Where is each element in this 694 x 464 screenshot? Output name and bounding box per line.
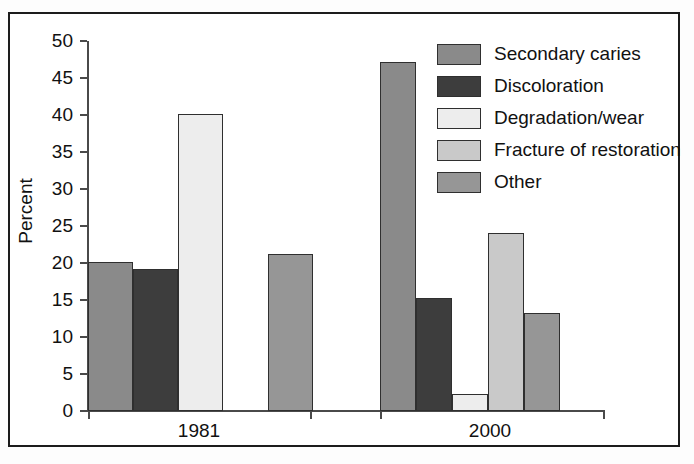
legend-color-swatch — [437, 108, 481, 129]
legend-item-label: Degradation/wear — [494, 107, 644, 129]
figure-container: 50454035302520151050 Percent 19812000 Se… — [0, 0, 694, 464]
bar — [452, 394, 488, 411]
y-axis-tick: 40 — [0, 105, 87, 124]
bar — [178, 114, 223, 411]
bar — [133, 269, 178, 411]
y-axis-title: Percent — [15, 141, 37, 281]
legend-color-swatch — [437, 172, 481, 193]
legend-item: Degradation/wear — [437, 102, 677, 134]
y-axis-tick: 5 — [0, 364, 87, 383]
y-axis-tick-label: 40 — [29, 105, 73, 124]
x-axis-category-label: 1981 — [139, 420, 259, 442]
y-axis-tick-label: 15 — [29, 290, 73, 309]
y-axis-tick-label: 10 — [29, 327, 73, 346]
y-axis-tick-label: 0 — [29, 401, 73, 420]
x-axis-tick-mark — [380, 410, 382, 419]
y-axis-tick: 0 — [0, 401, 87, 420]
x-axis-tick-mark — [603, 410, 605, 419]
x-axis-tick-mark — [310, 410, 312, 419]
x-axis-tick-mark — [88, 410, 90, 419]
legend-item-label: Other — [494, 171, 542, 193]
y-axis-tick: 10 — [0, 327, 87, 346]
legend-item-label: Fracture of restoration — [494, 139, 681, 161]
y-axis-tick-label: 50 — [29, 31, 73, 50]
bar — [268, 254, 313, 411]
y-axis-tick: 25 — [0, 216, 87, 235]
legend-color-swatch — [437, 140, 481, 161]
y-axis-tick: 35 — [0, 142, 87, 161]
y-axis-tick-label: 45 — [29, 68, 73, 87]
y-axis-tick: 20 — [0, 253, 87, 272]
y-axis-tick: 50 — [0, 31, 87, 50]
bar-chart-plot: 50454035302520151050 Percent 19812000 Se… — [0, 0, 694, 464]
bar — [88, 262, 133, 411]
y-axis-tick: 30 — [0, 179, 87, 198]
y-axis-tick: 15 — [0, 290, 87, 309]
y-axis-tick: 45 — [0, 68, 87, 87]
legend-item: Fracture of restoration — [437, 134, 677, 166]
bar — [380, 62, 416, 411]
legend-item: Discoloration — [437, 70, 677, 102]
legend-item: Secondary caries — [437, 38, 677, 70]
chart-legend: Secondary cariesDiscolorationDegradation… — [437, 38, 677, 198]
bar — [524, 313, 560, 411]
legend-item-label: Discoloration — [494, 75, 604, 97]
legend-color-swatch — [437, 76, 481, 97]
bar — [488, 233, 524, 411]
legend-color-swatch — [437, 44, 481, 65]
legend-item: Other — [437, 166, 677, 198]
y-axis-tick-label: 5 — [29, 364, 73, 383]
legend-item-label: Secondary caries — [494, 43, 641, 65]
bar — [416, 298, 452, 411]
x-axis-category-label: 2000 — [430, 420, 550, 442]
